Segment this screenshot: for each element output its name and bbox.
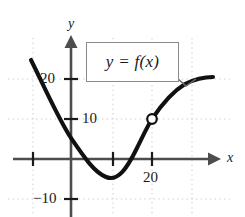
y-axis-label: y xyxy=(68,17,74,31)
graph-canvas xyxy=(0,0,245,217)
equation-label-box: y = f(x) xyxy=(86,42,179,82)
x-tick-label-20: 20 xyxy=(143,170,158,185)
equation-label-text: y = f(x) xyxy=(106,52,160,72)
y-tick-label-20: 20 xyxy=(40,71,55,86)
x-axis xyxy=(13,153,221,166)
x-axis-label: x xyxy=(227,151,233,165)
y-tick-label-neg10: −10 xyxy=(33,191,56,206)
y-axis xyxy=(65,35,78,217)
open-point-marker xyxy=(147,114,157,124)
y-tick-label-10: 10 xyxy=(82,111,97,126)
function-graph-figure: y = f(x) 20 10 −10 20 y x xyxy=(0,0,245,217)
